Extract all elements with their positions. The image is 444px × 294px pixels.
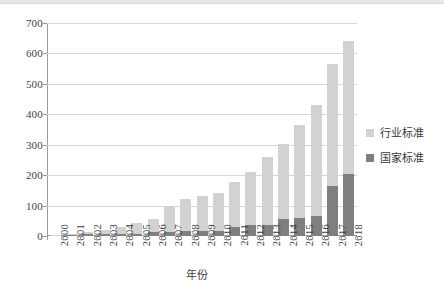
legend-label-national: 国家标准 [380, 152, 424, 164]
x-tick-label-2000: 2000 [59, 224, 70, 268]
x-tick-label-2014: 2014 [288, 224, 299, 268]
bar-segment-2015-industry[interactable] [294, 125, 305, 218]
x-tick-label-2013: 2013 [271, 224, 282, 268]
gridline-600 [47, 53, 357, 54]
legend-swatch-industry-icon [366, 129, 374, 137]
x-tick-label-2007: 2007 [173, 224, 184, 268]
x-tick-mark-2014 [275, 236, 276, 240]
gridline-700 [47, 23, 357, 24]
y-axis-tick-marks [0, 23, 47, 236]
x-tick-label-2015: 2015 [304, 224, 315, 268]
x-tick-mark-2006 [145, 236, 146, 240]
x-tick-label-2008: 2008 [190, 224, 201, 268]
x-tick-mark-2003 [96, 236, 97, 240]
x-tick-mark-2012 [243, 236, 244, 240]
legend-item-industry[interactable]: 行业标准 [366, 126, 442, 140]
x-tick-mark-2017 [324, 236, 325, 240]
x-tick-mark-2013 [259, 236, 260, 240]
x-tick-mark-2009 [194, 236, 195, 240]
bar-segment-2016-industry[interactable] [311, 105, 322, 215]
stacked-bar-chart: 0100200300400500600700 20002001200220032… [0, 0, 444, 294]
x-tick-label-2016: 2016 [320, 224, 331, 268]
x-tick-mark-2008 [178, 236, 179, 240]
x-tick-mark-2016 [308, 236, 309, 240]
x-tick-mark-2000 [47, 236, 48, 240]
x-tick-mark-end [357, 236, 358, 240]
plot-area [47, 23, 357, 236]
x-tick-label-2009: 2009 [206, 224, 217, 268]
legend-label-industry: 行业标准 [380, 127, 424, 139]
x-tick-label-2017: 2017 [337, 224, 348, 268]
bar-segment-2012-industry[interactable] [245, 172, 256, 225]
x-tick-label-2004: 2004 [124, 224, 135, 268]
x-tick-label-2001: 2001 [75, 224, 86, 268]
x-tick-label-2005: 2005 [141, 224, 152, 268]
x-tick-mark-2015 [292, 236, 293, 240]
legend-item-national[interactable]: 国家标准 [366, 151, 442, 165]
gridline-500 [47, 84, 357, 85]
x-tick-mark-2011 [226, 236, 227, 240]
top-border-rule [0, 0, 444, 4]
x-tick-mark-2002 [80, 236, 81, 240]
bar-segment-2013-industry[interactable] [262, 157, 273, 225]
x-tick-label-2006: 2006 [157, 224, 168, 268]
x-tick-mark-2004 [112, 236, 113, 240]
x-tick-mark-2010 [210, 236, 211, 240]
x-tick-label-2003: 2003 [108, 224, 119, 268]
chart-legend: 行业标准 国家标准 [366, 126, 442, 176]
bar-segment-2018-industry[interactable] [343, 41, 354, 173]
x-tick-label-2002: 2002 [92, 224, 103, 268]
x-tick-mark-2005 [129, 236, 130, 240]
legend-swatch-national-icon [366, 154, 374, 162]
bar-segment-2014-industry[interactable] [278, 144, 289, 220]
bar-segment-2011-industry[interactable] [229, 182, 240, 227]
x-tick-label-2011: 2011 [239, 224, 250, 268]
x-tick-label-2012: 2012 [255, 224, 266, 268]
x-tick-label-2010: 2010 [222, 224, 233, 268]
bar-segment-2017-industry[interactable] [327, 64, 338, 186]
x-tick-mark-2007 [161, 236, 162, 240]
x-tick-mark-2001 [63, 236, 64, 240]
x-axis-title: 年份 [186, 269, 208, 281]
x-tick-mark-2018 [341, 236, 342, 240]
x-tick-label-2018: 2018 [353, 224, 364, 268]
